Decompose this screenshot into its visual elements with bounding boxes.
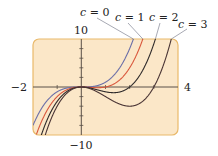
leader-line-c2 [155, 23, 160, 39]
curve-label-c2: c = 2 [149, 11, 178, 24]
curve-label-c3: c = 3 [178, 18, 207, 31]
x-max-label: 4 [184, 81, 191, 94]
y-max-label: 10 [74, 24, 88, 37]
cubic-family-chart: 10 −10 −2 4 c = 0 c = 1 c = 2 c = 3 [0, 0, 218, 156]
curve-label-c0: c = 0 [80, 6, 109, 19]
x-min-label: −2 [11, 81, 27, 94]
curve-label-c1: c = 1 [115, 11, 144, 24]
leader-line-c1 [128, 23, 143, 39]
y-min-label: −10 [69, 139, 92, 152]
